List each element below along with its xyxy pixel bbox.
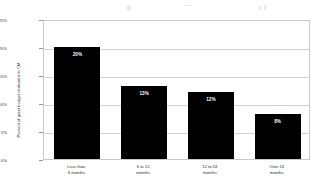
- bar: 20%: [54, 47, 100, 159]
- scan-speck-icon: [127, 6, 131, 10]
- x-axis-tick-label-line: 6 months: [43, 170, 110, 176]
- x-axis-tick-label-line: 12 to 24: [202, 164, 217, 169]
- bar-value-label: 13%: [121, 91, 167, 97]
- x-axis-tick-label-line: Over 24: [269, 164, 284, 169]
- plot-area: 20%13%12%8%: [43, 20, 310, 160]
- bar: 8%: [255, 114, 301, 159]
- bar: 12%: [188, 92, 234, 159]
- x-axis-tick-label-line: 6 to 12: [137, 164, 150, 169]
- scan-speck-icon: [185, 5, 192, 6]
- scan-speck-icon: [259, 6, 261, 10]
- x-axis-tick-label: 12 to 24months: [177, 164, 244, 175]
- x-axis-tick-label-line: months: [110, 170, 177, 176]
- bar: 13%: [121, 86, 167, 159]
- y-axis-title: Percent of grant budget dedicated to CM: [14, 30, 24, 170]
- x-axis-tick-label: Over 24months: [243, 164, 310, 175]
- bar-value-label: 12%: [188, 97, 234, 103]
- y-axis-tick-mark: [39, 160, 43, 161]
- x-axis-tick-label-line: Less than: [67, 164, 85, 169]
- y-axis-tick-label: 10%: [0, 102, 7, 107]
- y-axis-tick-label: 25%: [0, 18, 7, 23]
- x-axis-tick-label: 6 to 12months: [110, 164, 177, 175]
- bar-value-label: 20%: [54, 52, 100, 58]
- bar-chart-figure: Percent of grant budget dedicated to CM …: [0, 0, 323, 189]
- x-axis-tick-label-line: months: [243, 170, 310, 176]
- bar-value-label: 8%: [255, 119, 301, 125]
- x-axis-tick-label: Less than6 months: [43, 164, 110, 175]
- scan-speck-icon: [264, 5, 266, 10]
- y-axis-tick-label: 15%: [0, 74, 7, 79]
- y-axis-tick-label: 5%: [0, 130, 7, 135]
- y-axis-tick-label: 20%: [0, 46, 7, 51]
- x-axis-tick-label-line: months: [177, 170, 244, 176]
- y-axis-tick-label: 0%: [0, 158, 7, 163]
